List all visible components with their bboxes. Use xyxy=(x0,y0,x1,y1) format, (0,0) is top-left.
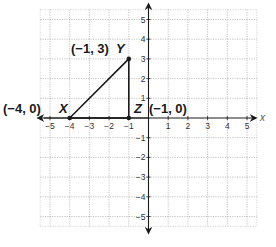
x-tick-label: −1 xyxy=(124,121,134,131)
segment-xy xyxy=(70,59,129,118)
point-y xyxy=(127,57,132,62)
x-tick-label: 4 xyxy=(225,121,230,131)
point-x xyxy=(67,116,72,121)
x-axis-label: x xyxy=(259,112,266,123)
y-tick-label: −1 xyxy=(136,133,146,143)
x-tick-label: 2 xyxy=(186,121,191,131)
y-tick-label: 2 xyxy=(141,74,146,84)
x-tick-label: 5 xyxy=(245,121,250,131)
x-tick-label: −5 xyxy=(45,121,55,131)
point-x-name-label: X xyxy=(58,101,69,116)
y-tick-label: 3 xyxy=(141,54,146,64)
x-tick-label: 3 xyxy=(205,121,210,131)
x-tick-label: −2 xyxy=(104,121,114,131)
coordinate-plane-diagram: −5−4−3−2−11234554321−1−2−3−4−5 (−4, 0) X… xyxy=(0,0,276,247)
point-z xyxy=(127,116,132,121)
point-y-name-label: Y xyxy=(116,41,126,56)
coordinate-plane-svg: −5−4−3−2−11234554321−1−2−3−4−5 (−4, 0) X… xyxy=(0,0,276,247)
point-x-coord-label: (−4, 0) xyxy=(3,101,41,116)
point-z-coord-label: (−1, 0) xyxy=(149,101,187,116)
y-tick-label: 5 xyxy=(141,15,146,25)
y-tick-label: −3 xyxy=(136,172,146,182)
point-y-coord-label: (−1, 3) xyxy=(71,41,109,56)
x-tick-label: −3 xyxy=(85,121,95,131)
point-z-name-label: Z xyxy=(133,101,143,116)
x-tick-label: 1 xyxy=(166,121,171,131)
triangle-xyz xyxy=(70,59,129,118)
x-tick-label: −4 xyxy=(65,121,75,131)
y-tick-label: 4 xyxy=(141,34,146,44)
y-tick-label: −2 xyxy=(136,152,146,162)
y-tick-label: −4 xyxy=(136,192,146,202)
y-tick-label: −5 xyxy=(136,212,146,222)
